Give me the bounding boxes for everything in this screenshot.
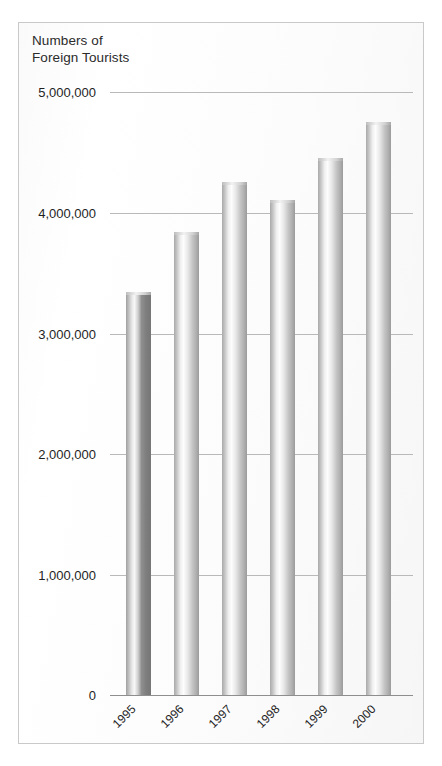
bar-1996[interactable] (174, 232, 199, 695)
bar-top-cap (318, 158, 343, 161)
bar-1999[interactable] (318, 158, 343, 695)
bar-top-cap (174, 232, 199, 235)
gridline-5000000 (110, 92, 413, 93)
bar-2000[interactable] (366, 122, 391, 695)
xtick-label-2000: 2000 (350, 702, 379, 731)
ytick-label-1000000: 1,000,000 (38, 568, 96, 583)
bar-top-cap (366, 122, 391, 125)
ytick-label-5000000: 5,000,000 (38, 85, 96, 100)
ytick-label-0: 0 (89, 688, 96, 703)
bar-top-cap (222, 182, 247, 185)
xtick-label-1998: 1998 (254, 702, 283, 731)
figure-canvas: Numbers of Foreign Tourists 5,000,000 4,… (0, 0, 442, 766)
xtick-label-1996: 1996 (158, 702, 187, 731)
ytick-label-3000000: 3,000,000 (38, 327, 96, 342)
bar-top-cap (270, 200, 295, 203)
x-axis-baseline (110, 695, 413, 696)
bar-1995[interactable] (126, 292, 151, 695)
bar-1997[interactable] (222, 182, 247, 695)
xtick-label-1999: 1999 (302, 702, 331, 731)
ytick-label-2000000: 2,000,000 (38, 447, 96, 462)
plot-area: 5,000,000 4,000,000 3,000,000 2,000,000 … (0, 0, 442, 766)
bar-1998[interactable] (270, 200, 295, 695)
bar-top-cap (126, 292, 151, 295)
xtick-label-1997: 1997 (206, 702, 235, 731)
chart-title: Numbers of Foreign Tourists (32, 32, 129, 66)
ytick-label-4000000: 4,000,000 (38, 206, 96, 221)
xtick-label-1995: 1995 (110, 702, 139, 731)
